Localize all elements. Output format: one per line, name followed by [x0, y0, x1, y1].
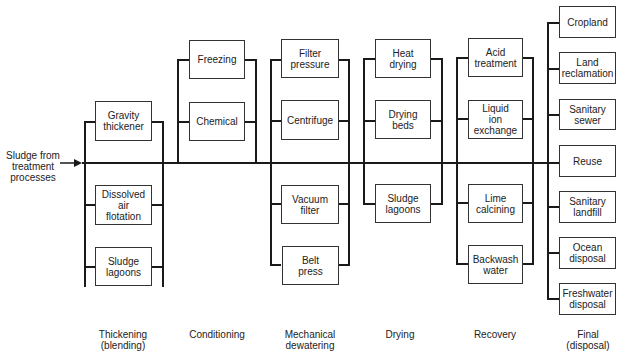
stage-label-recovery: Recovery: [465, 329, 525, 340]
option-vacuum-filter: Vacuum filter: [281, 185, 339, 224]
option-dissolved-air-flotation: Dissolved air flotation: [95, 185, 152, 225]
input-label: Sludge from treatment processes: [4, 150, 62, 183]
option-filter-pressure: Filter pressure: [281, 39, 339, 78]
stage-label-conditioning: Conditioning: [180, 329, 254, 340]
stage-label-final-disposal: Final (disposal): [556, 329, 620, 351]
stage-label-mechanical-dewatering: Mechanical dewatering: [275, 329, 345, 351]
option-sludge-lagoons: Sludge lagoons: [95, 247, 152, 286]
option-backwash-water: Backwash water: [468, 245, 523, 284]
option-centrifuge: Centrifuge: [281, 100, 339, 140]
option-sanitary-landfill: Sanitary landfill: [559, 191, 616, 223]
option-freezing: Freezing: [189, 40, 245, 79]
main-flow-line: [82, 162, 559, 164]
option-ocean-disposal: Ocean disposal: [559, 237, 616, 269]
option-sanitary-sewer: Sanitary sewer: [559, 99, 616, 130]
option-sludge-lagoons-drying: Sludge lagoons: [375, 184, 431, 223]
option-freshwater-disposal: Freshwater disposal: [559, 283, 616, 315]
option-heat-drying: Heat drying: [375, 39, 431, 78]
arrow-right-icon: [60, 158, 82, 168]
option-land-reclamation: Land reclamation: [559, 52, 616, 84]
option-acid-treatment: Acid treatment: [468, 38, 523, 77]
option-belt-press: Belt press: [282, 246, 339, 285]
option-gravity-thickener: Gravity thickener: [95, 101, 152, 141]
option-liquid-ion-exchange: Liquid ion exchange: [468, 100, 523, 139]
stage-label-drying: Drying: [370, 329, 430, 340]
option-cropland: Cropland: [559, 6, 616, 38]
option-drying-beds: Drying beds: [375, 100, 431, 139]
option-reuse: Reuse: [559, 145, 616, 177]
option-chemical: Chemical: [189, 102, 245, 141]
option-lime-calcining: Lime calcining: [468, 184, 523, 223]
stage-label-thickening: Thickening (blending): [90, 329, 156, 351]
